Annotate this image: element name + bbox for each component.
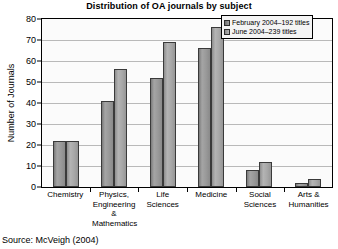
y-tick-label: 40: [26, 98, 36, 108]
bar: [211, 27, 224, 187]
y-tick-label: 60: [26, 56, 36, 66]
y-tick-label: 10: [26, 161, 36, 171]
y-tick-label: 80: [26, 14, 36, 24]
y-tick-label: 70: [26, 35, 36, 45]
x-tick-label: Life Sciences: [141, 190, 185, 242]
x-tick-label: Arts &Humanities: [287, 190, 331, 242]
legend: February 2004–192 titles June 2004–239 t…: [221, 15, 313, 39]
bar-group: [295, 19, 321, 187]
bar: [163, 42, 176, 187]
bar: [66, 141, 79, 187]
y-tick-label: 20: [26, 140, 36, 150]
legend-item-series-1: February 2004–192 titles: [224, 18, 309, 27]
bar-group: [101, 19, 127, 187]
legend-swatch-icon-series-2: [224, 29, 230, 35]
chart-figure: Distribution of OA journals by subject N…: [0, 0, 338, 249]
legend-item-series-2: June 2004–239 titles: [224, 27, 309, 36]
bar: [246, 170, 259, 187]
legend-label-series-2: June 2004–239 titles: [232, 27, 297, 36]
bar-group: [246, 19, 272, 187]
y-tick-label: 0: [31, 182, 36, 192]
bar: [295, 183, 308, 187]
bar-group: [150, 19, 176, 187]
bar: [53, 141, 66, 187]
bar-group: [53, 19, 79, 187]
bar: [308, 179, 321, 187]
bar: [114, 69, 127, 187]
bar: [150, 78, 163, 187]
bar: [198, 48, 211, 187]
source-note: Source: McVeigh (2004): [2, 235, 99, 245]
bar-groups: [42, 19, 332, 187]
bar: [259, 162, 272, 187]
x-tick-label: SocialSciences: [238, 190, 282, 242]
plot-area: [41, 18, 333, 188]
y-tick-label: 30: [26, 119, 36, 129]
y-axis: 01020304050607080: [0, 18, 41, 188]
legend-label-series-1: February 2004–192 titles: [232, 18, 309, 27]
chart-title: Distribution of OA journals by subject: [0, 1, 338, 11]
x-tick-label: Medicine: [189, 190, 233, 242]
legend-swatch-icon-series-1: [224, 20, 230, 26]
y-tick-label: 50: [26, 77, 36, 87]
x-tick-label: Physics,Engineering&Mathematics: [92, 190, 136, 242]
bar: [101, 101, 114, 187]
bar-group: [198, 19, 224, 187]
